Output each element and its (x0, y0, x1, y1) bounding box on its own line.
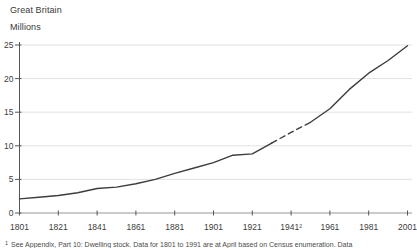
x-tick-label-1981: 1981 (359, 222, 378, 232)
x-tick-label-1841: 1841 (88, 222, 107, 232)
x-tick-label-1961: 1961 (320, 222, 339, 232)
series-solid-early (20, 143, 272, 199)
x-tick-label-1861: 1861 (126, 222, 145, 232)
y-tick-label-0: 0 (9, 208, 14, 218)
x-tick-label-1921: 1921 (243, 222, 262, 232)
x-tick-label-1901: 1901 (204, 222, 223, 232)
x-tick-label-1941: 1941² (280, 222, 302, 232)
chart-figure: Great Britain Millions 05101520251801182… (0, 0, 417, 248)
x-tick-label-1881: 1881 (165, 222, 184, 232)
series-solid-late (311, 46, 408, 123)
x-tick-label-1801: 1801 (10, 222, 29, 232)
dwelling-stock-line-chart: 0510152025180118211841186118811901192119… (0, 0, 417, 248)
footnote-text: See Appendix, Part 10: Dwelling stock. D… (11, 241, 352, 248)
y-tick-label-20: 20 (4, 74, 14, 84)
y-tick-label-15: 15 (4, 107, 14, 117)
y-tick-label-5: 5 (9, 174, 14, 184)
y-tick-label-25: 25 (4, 40, 14, 50)
y-tick-label-10: 10 (4, 141, 14, 151)
series-dashed-estimate (272, 122, 311, 143)
footnote-marker: 1 (5, 240, 8, 246)
footnote: 1See Appendix, Part 10: Dwelling stock. … (5, 239, 352, 248)
x-tick-label-1821: 1821 (49, 222, 68, 232)
x-tick-label-2001: 2001 (398, 222, 417, 232)
